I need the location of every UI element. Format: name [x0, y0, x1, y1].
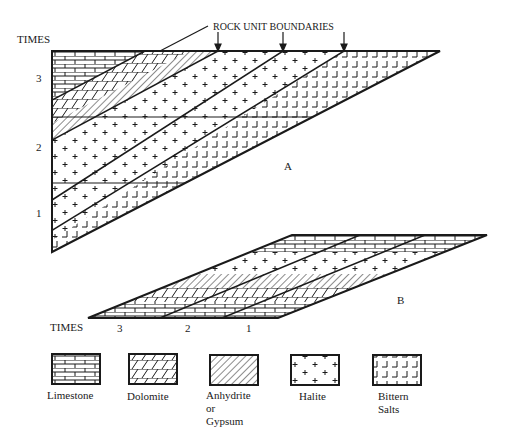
anhydrite-swatch [210, 355, 258, 385]
legend-label-bittern: Bittern Salts [378, 390, 409, 416]
time-tick-2-a: 2 [36, 141, 42, 153]
bittern-swatch [373, 355, 421, 385]
legend-label-limestone: Limestone [47, 389, 93, 402]
time-tick-1-a: 1 [36, 207, 42, 219]
times-axis-title-a: TIMES [17, 33, 50, 45]
callout-label: ROCK UNIT BOUNDARIES [213, 21, 334, 33]
limestone-swatch [52, 354, 100, 384]
boundary-arrows [215, 32, 347, 51]
time-tick-3-b: 3 [117, 322, 123, 334]
legend-label-halite: Halite [299, 390, 326, 403]
time-tick-1-b: 1 [246, 322, 252, 334]
legend-label-anhydrite: Anhydrite or Gypsum [206, 389, 251, 428]
facies-diagram [0, 0, 505, 444]
legend-label-dolomite: Dolomite [127, 390, 169, 403]
diagram-a-label: A [284, 160, 292, 172]
times-axis-title-b: TIMES [50, 321, 83, 333]
time-tick-2-b: 2 [185, 322, 191, 334]
diagram-b-label: B [397, 294, 404, 306]
halite-swatch [291, 355, 339, 385]
legend-swatches [52, 354, 421, 385]
callout-leader-line [160, 26, 208, 51]
dolomite-swatch [129, 354, 177, 384]
time-tick-3-a: 3 [36, 72, 42, 84]
